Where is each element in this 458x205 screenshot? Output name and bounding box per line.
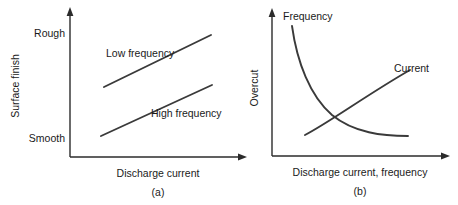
figure-root: Rough Smooth Surface finish Discharge cu… [0,0,458,205]
chart-b-x-axis [272,153,450,160]
chart-a: Rough Smooth Surface finish Discharge cu… [9,7,247,198]
chart-b-x-axis-title: Discharge current, frequency [293,166,429,178]
chart-b-y-axis [269,8,276,156]
chart-a-series-low-frequency-line [104,35,211,87]
chart-a-caption: (a) [152,186,165,198]
chart-a-y-axis [67,7,74,157]
chart-a-y-axis-title: Surface finish [9,54,21,118]
x-axis-arrow-icon [441,153,450,160]
chart-b-y-axis-title: Overcut [248,70,260,107]
chart-a-x-axis [70,154,247,161]
chart-b-caption: (b) [354,185,367,197]
technical-figure: Rough Smooth Surface finish Discharge cu… [0,0,458,205]
chart-b-label-current: Current [394,62,429,74]
chart-a-label-low-frequency: Low frequency [106,47,175,59]
chart-b-label-frequency: Frequency [283,10,333,22]
y-axis-arrow-icon [67,7,74,16]
y-axis-arrow-icon [269,8,276,17]
chart-a-x-axis-title: Discharge current [117,167,200,179]
chart-a-ytick-smooth: Smooth [29,132,65,144]
chart-b: Overcut Discharge current, frequency Fre… [248,8,450,197]
chart-a-label-high-frequency: High frequency [151,107,222,119]
chart-a-ytick-rough: Rough [34,27,65,39]
x-axis-arrow-icon [238,154,247,161]
